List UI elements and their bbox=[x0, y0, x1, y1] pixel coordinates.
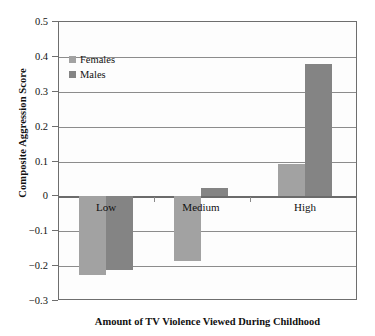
legend-label-females: Females bbox=[80, 54, 115, 65]
y-tick-label: 0.3 bbox=[0, 85, 48, 96]
y-tick-label: 0.4 bbox=[0, 50, 48, 61]
y-tick-label: 0 bbox=[0, 190, 48, 201]
x-tick-mark bbox=[250, 197, 251, 202]
legend-swatch-females-icon bbox=[69, 56, 76, 63]
legend-label-males: Males bbox=[80, 69, 106, 80]
bar-chart-figure: Composite Aggression Score 0.50.40.30.20… bbox=[0, 0, 375, 336]
y-tick-label: −0.2 bbox=[0, 260, 48, 271]
y-tick-label: −0.3 bbox=[0, 295, 48, 306]
category-label-high: High bbox=[294, 201, 316, 213]
y-tick-label: 0.1 bbox=[0, 155, 48, 166]
chart-legend: Females Males bbox=[69, 53, 115, 81]
y-tick-mark bbox=[52, 300, 58, 301]
bar-medium-males bbox=[201, 188, 228, 197]
x-tick-mark bbox=[154, 197, 155, 202]
plot-area: LowMediumHigh Females Males bbox=[58, 21, 357, 300]
x-axis-title: Amount of TV Violence Viewed During Chil… bbox=[58, 316, 357, 327]
y-axis-title: Composite Aggression Score bbox=[14, 0, 32, 283]
y-tick-label: 0.5 bbox=[0, 16, 48, 27]
bar-high-females bbox=[278, 164, 305, 196]
bar-high-males bbox=[305, 64, 332, 197]
y-tick-label: −0.1 bbox=[0, 225, 48, 236]
legend-swatch-males-icon bbox=[69, 71, 76, 78]
category-label-medium: Medium bbox=[182, 201, 219, 213]
legend-item-females: Females bbox=[69, 53, 115, 66]
category-label-low: Low bbox=[96, 201, 116, 213]
legend-item-males: Males bbox=[69, 68, 115, 81]
y-tick-label: 0.2 bbox=[0, 120, 48, 131]
